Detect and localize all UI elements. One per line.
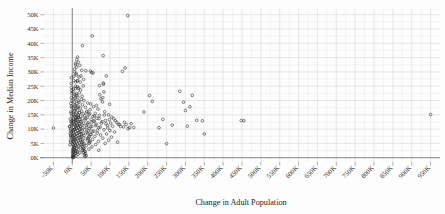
data-point xyxy=(111,125,114,128)
data-point xyxy=(104,119,107,122)
data-point xyxy=(73,68,76,71)
data-point xyxy=(91,138,94,141)
x-tick-label: 150K xyxy=(114,164,129,179)
y-tick-label: 15K xyxy=(27,111,39,118)
data-point xyxy=(76,56,79,59)
data-point xyxy=(73,101,76,104)
x-tick-label: 650K xyxy=(303,164,318,179)
y-axis-title: Change in Median Income xyxy=(6,52,15,139)
x-tick-labels: -50K0K50K100K150K200K250K300K350K400K450… xyxy=(40,164,432,179)
data-point xyxy=(75,58,78,61)
y-tick-label: 40K xyxy=(27,40,39,47)
x-tick-label: 850K xyxy=(378,164,393,179)
data-point xyxy=(69,143,72,146)
data-point xyxy=(94,112,97,115)
data-point xyxy=(161,118,164,121)
data-point xyxy=(78,152,81,155)
data-point xyxy=(97,149,100,152)
data-point xyxy=(124,67,127,70)
y-tick-label: 20K xyxy=(27,97,39,104)
data-point xyxy=(103,128,106,131)
tickmarks-group xyxy=(41,15,431,166)
data-point xyxy=(85,126,88,129)
data-point xyxy=(97,140,100,143)
data-point xyxy=(191,94,194,97)
x-tick-label: 350K xyxy=(190,164,205,179)
data-point xyxy=(84,106,87,109)
x-tick-label: 50K xyxy=(79,164,92,177)
data-point xyxy=(106,124,109,127)
x-tick-label: 200K xyxy=(133,164,148,179)
y-tick-label: 50K xyxy=(27,11,39,18)
data-point xyxy=(103,91,106,94)
data-point xyxy=(171,124,174,127)
data-point xyxy=(130,122,133,125)
data-point xyxy=(132,126,135,129)
data-point xyxy=(105,133,108,136)
y-tick-label: 0K xyxy=(30,154,38,161)
data-point xyxy=(95,104,98,107)
y-tick-label: 35K xyxy=(27,54,39,61)
data-point xyxy=(79,107,82,110)
data-point xyxy=(81,95,84,98)
data-point xyxy=(102,54,105,57)
data-point xyxy=(78,64,81,67)
data-point xyxy=(125,123,128,126)
y-tick-label: 10K xyxy=(27,125,39,132)
y-tick-label: 25K xyxy=(27,83,39,90)
x-tick-label: 550K xyxy=(265,164,280,179)
axis-lines xyxy=(40,8,440,163)
x-tick-label: -50K xyxy=(40,164,55,179)
data-point xyxy=(186,125,189,128)
data-point xyxy=(182,101,185,104)
plot-canvas: 0K5K10K15K20K25K30K35K40K45K50K -50K0K50… xyxy=(0,0,445,214)
data-point xyxy=(78,91,81,94)
data-point xyxy=(195,119,198,122)
x-tick-label: 950K xyxy=(416,164,431,179)
data-point xyxy=(96,132,99,135)
y-tick-label: 30K xyxy=(27,68,39,75)
x-axis-title: Change in Adult Population xyxy=(195,198,286,207)
data-point xyxy=(143,111,146,114)
data-point xyxy=(101,101,104,104)
y-tick-label: 5K xyxy=(30,140,38,147)
scatter-chart: 0K5K10K15K20K25K30K35K40K45K50K -50K0K50… xyxy=(0,0,445,214)
x-tick-label: 450K xyxy=(227,164,242,179)
data-point xyxy=(178,90,181,93)
data-point xyxy=(84,137,87,140)
x-tick-label: 600K xyxy=(284,164,299,179)
x-tick-label: 500K xyxy=(246,164,261,179)
data-point xyxy=(103,110,106,113)
data-point xyxy=(107,139,110,142)
x-tick-label: 250K xyxy=(152,164,167,179)
data-point xyxy=(121,70,124,73)
data-point xyxy=(88,148,91,151)
x-tick-label: 0K xyxy=(62,164,73,175)
y-tick-labels: 0K5K10K15K20K25K30K35K40K45K50K xyxy=(27,11,39,161)
data-point xyxy=(108,103,111,106)
data-point xyxy=(158,126,161,129)
data-point xyxy=(82,78,85,81)
data-point xyxy=(148,94,151,97)
data-point xyxy=(101,137,104,140)
data-point xyxy=(105,122,108,125)
y-tick-label: 45K xyxy=(27,25,39,32)
data-point xyxy=(123,121,126,124)
data-point xyxy=(89,103,92,106)
x-tick-label: 100K xyxy=(95,164,110,179)
data-point xyxy=(79,81,82,84)
x-tick-label: 300K xyxy=(171,164,186,179)
data-point xyxy=(113,131,116,134)
data-point xyxy=(77,61,80,64)
x-tick-label: 700K xyxy=(322,164,337,179)
x-tick-label: 800K xyxy=(359,164,374,179)
data-point xyxy=(85,144,88,147)
x-tick-label: 400K xyxy=(209,164,224,179)
data-point xyxy=(86,102,89,105)
data-point xyxy=(105,75,108,78)
data-point xyxy=(97,108,100,111)
x-tick-label: 750K xyxy=(341,164,356,179)
x-tick-label: 900K xyxy=(397,164,412,179)
data-point xyxy=(122,125,125,128)
